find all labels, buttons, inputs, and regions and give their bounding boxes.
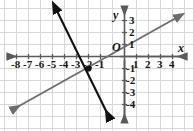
x-tick-label-neg8: -8 [11, 59, 20, 70]
y-tick-label-neg1: -1 [126, 63, 135, 74]
y-tick-label-neg2: -2 [126, 75, 135, 86]
y-tick-label-neg3: -3 [126, 87, 135, 98]
y-tick-label-neg4: -4 [126, 99, 135, 110]
x-tick-label-neg2: -2 [83, 59, 92, 70]
x-tick-label-2: 2 [145, 59, 151, 70]
y-tick-label-2: 2 [129, 27, 135, 38]
origin-label: O [112, 41, 121, 53]
y-tick-label-1: 1 [129, 39, 135, 50]
x-tick-label-neg7: -7 [23, 59, 32, 70]
y-axis-label: y [113, 9, 118, 21]
x-tick-label-neg1: -1 [95, 59, 104, 70]
x-tick-label-neg3: -3 [71, 59, 80, 70]
x-tick-label-neg4: -4 [59, 59, 68, 70]
x-tick-label-neg6: -6 [35, 59, 44, 70]
y-tick-label-3: 3 [129, 15, 135, 26]
x-tick-label-3: 3 [157, 59, 163, 70]
x-tick-label-4: 4 [169, 59, 175, 70]
x-tick-label-neg5: -5 [47, 59, 56, 70]
x-axis-label: x [178, 42, 184, 54]
coordinate-plane-figure: y x O -8 -7 -6 -5 -4 -3 -2 -1 1 2 3 4 3 … [0, 0, 193, 131]
